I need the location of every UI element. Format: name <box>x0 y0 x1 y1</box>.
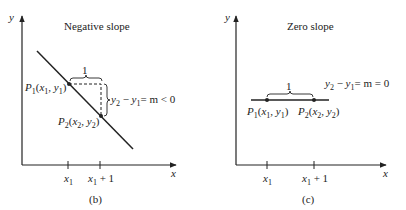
y-axis-label: y <box>224 11 230 23</box>
caption-c: (c) <box>302 193 315 206</box>
panel-title: Negative slope <box>64 20 130 32</box>
p2-label: P2(x2, y2) <box>57 115 100 130</box>
p1-label: P1(x1, y1) <box>246 105 289 120</box>
p2-label: P2(x2, y2) <box>297 105 340 120</box>
panel-c-zero-slope: y x Zero slope 1 P1(x1, y1) P2(x2, y2) y… <box>224 11 390 206</box>
tick-label-x1: x1 <box>63 172 73 187</box>
tick-label-x1: x1 <box>262 172 272 187</box>
point-p1 <box>265 98 269 102</box>
y-axis-label: y <box>8 11 14 23</box>
caption-b: (b) <box>89 193 102 206</box>
tick-label-x1-plus-1: x1 + 1 <box>301 172 328 187</box>
panel-b-negative-slope: y x Negative slope 1 P1(x1, y1) P2(x2, y… <box>8 11 176 206</box>
rise-equation: y2 − y1= m < 0 <box>110 93 176 108</box>
point-p2 <box>99 114 103 118</box>
slope-diagram: y x Negative slope 1 P1(x1, y1) P2(x2, y… <box>0 0 406 210</box>
x-axis-label: x <box>170 167 176 179</box>
point-p1 <box>67 82 71 86</box>
run-label: 1 <box>82 64 88 76</box>
rise-equation: y2 − y1= m = 0 <box>324 77 390 92</box>
rise-brace <box>104 84 110 116</box>
panel-title: Zero slope <box>287 20 334 32</box>
p1-label: P1(x1, y1) <box>24 81 67 96</box>
run-label: 1 <box>286 80 292 92</box>
tick-label-x1-plus-1: x1 + 1 <box>87 172 114 187</box>
point-p2 <box>312 98 316 102</box>
x-axis-label: x <box>382 167 388 179</box>
